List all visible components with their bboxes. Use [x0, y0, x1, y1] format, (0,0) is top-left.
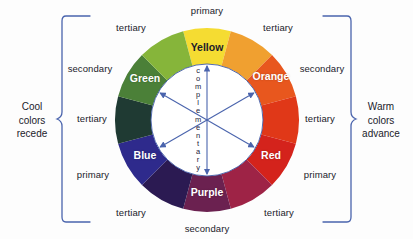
annotation-tertiary-left: tertiary	[77, 113, 107, 124]
segment-label-yellow: Yellow	[191, 41, 224, 53]
caption-line: recede	[17, 127, 48, 141]
annotation-secondary-right: secondary	[300, 63, 345, 74]
wheel-graphic	[0, 0, 413, 239]
segment-label-green: Green	[130, 72, 160, 84]
annotation-primary-top: primary	[191, 5, 223, 16]
cool-colors-caption: Coolcolorsrecede	[17, 100, 48, 141]
color-wheel-diagram: Yellow Orange Red Purple Blue Green c o …	[0, 0, 413, 239]
segment-label-red: Red	[261, 149, 281, 161]
caption-line: colors	[362, 113, 400, 127]
segment-label-purple: Purple	[191, 186, 224, 198]
annotation-primary-left: primary	[77, 169, 109, 180]
caption-line: colors	[17, 113, 48, 127]
annotation-primary-right: primary	[304, 169, 336, 180]
annotation-tertiary-top-left: tertiary	[116, 22, 146, 33]
annotation-tertiary-bottom-right: tertiary	[264, 207, 294, 218]
annotation-tertiary-bottom-left: tertiary	[116, 207, 146, 218]
segment-label-orange: Orange	[253, 70, 290, 82]
segment-label-blue: Blue	[134, 149, 157, 161]
complementary-label: c o m p l e m e n t a r y	[195, 67, 201, 172]
annotation-secondary-left: secondary	[68, 63, 113, 74]
caption-line: Warm	[362, 100, 400, 114]
caption-line: Cool	[17, 100, 48, 114]
warm-colors-caption: Warmcolorsadvance	[362, 100, 400, 141]
annotation-secondary-bottom: secondary	[185, 223, 230, 234]
annotation-tertiary-top-right: tertiary	[263, 22, 293, 33]
caption-line: advance	[362, 127, 400, 141]
annotation-tertiary-right: tertiary	[305, 113, 335, 124]
